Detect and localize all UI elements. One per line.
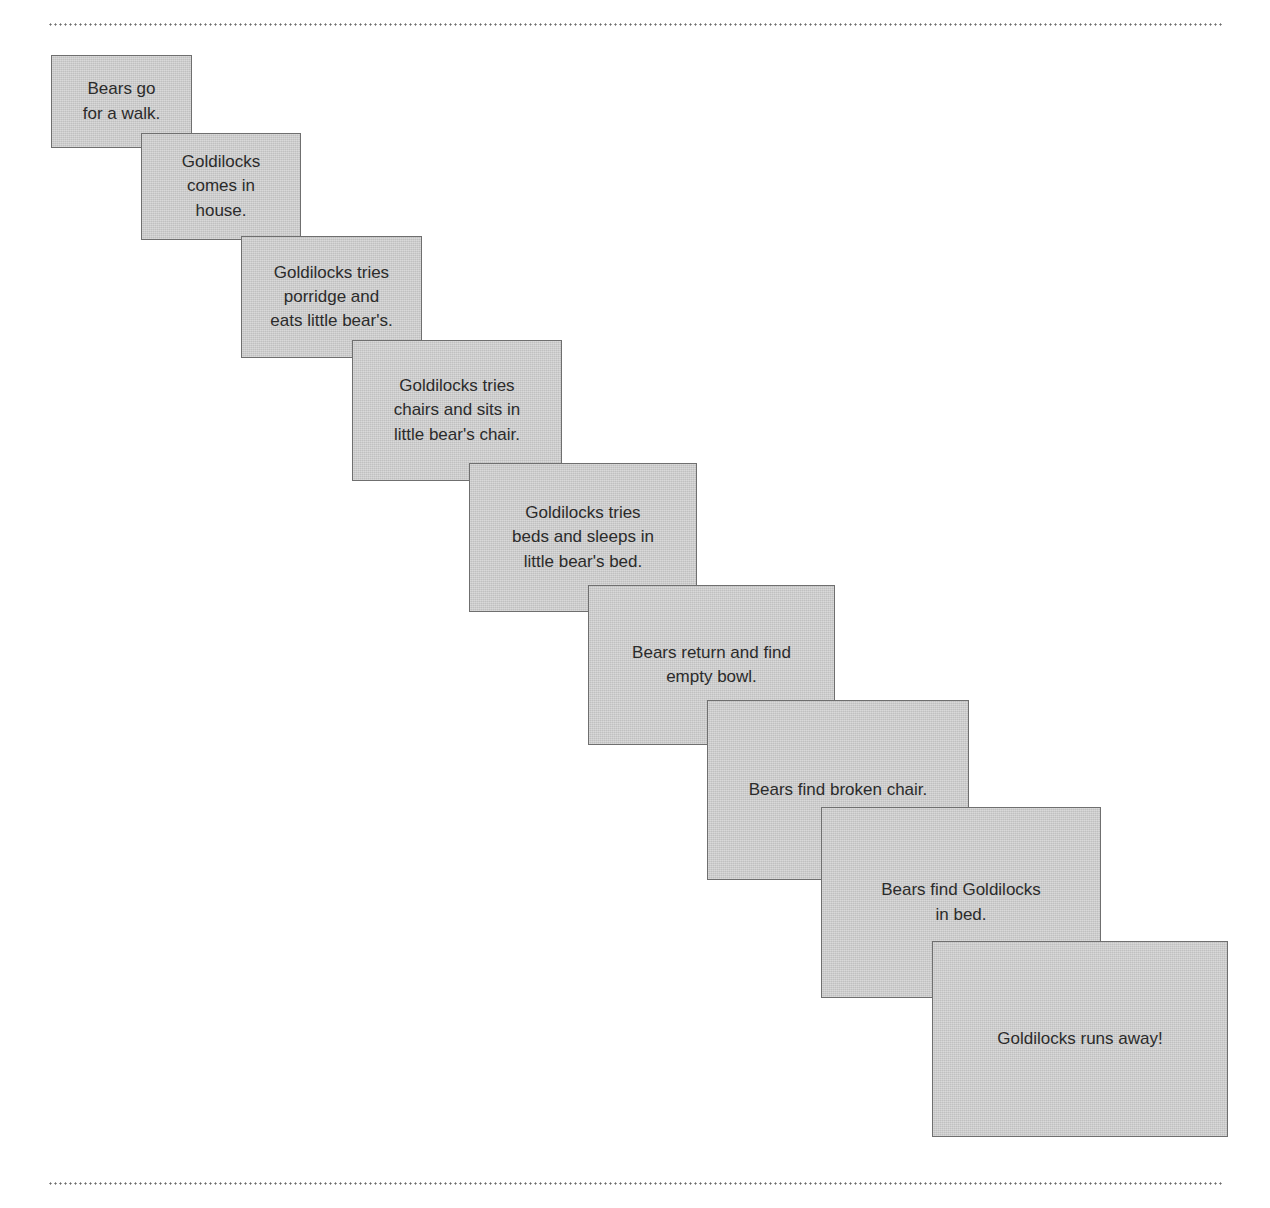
story-card[interactable]: Goldilocks comes in house. <box>141 133 301 240</box>
bottom-dotted-divider <box>48 1182 1223 1185</box>
story-card[interactable]: Goldilocks runs away! <box>932 941 1228 1137</box>
story-sequence-chain: Bears go for a walk.Goldilocks comes in … <box>0 0 1270 1208</box>
story-card[interactable]: Goldilocks tries chairs and sits in litt… <box>352 340 562 481</box>
storyboard-page: Bears go for a walk.Goldilocks comes in … <box>0 0 1270 1208</box>
